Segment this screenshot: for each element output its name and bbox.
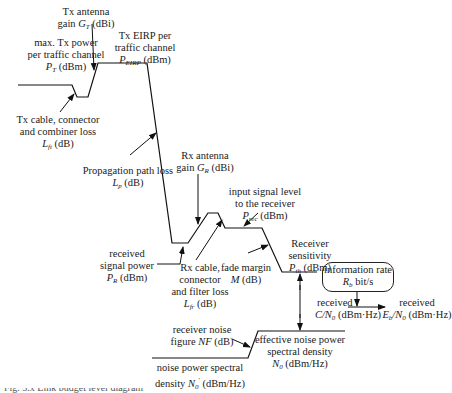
label-ebn0: received Eb/N0 (dBm·Hz) <box>382 297 452 324</box>
arrow-fade-margin <box>248 245 268 253</box>
label-info-rate: information rate Rb bit/s <box>322 264 394 291</box>
link-budget-diagram: max. Tx power per traffic channel PT (dB… <box>0 0 452 393</box>
arrow-noise-figure <box>232 339 250 347</box>
arrow-path-loss <box>130 133 156 155</box>
label-tx-loss: Tx cable, connector and combiner loss Lf… <box>8 114 108 153</box>
label-noise-figure: receiver noise figure NF (dB) <box>170 324 234 348</box>
label-cn0: received C/N0 (dBm·Hz) <box>303 297 393 324</box>
label-rx-power: received signal power PR (dBm) <box>96 248 158 287</box>
arrow-tx-loss <box>60 94 74 112</box>
label-fade-margin: fade margin M (dB) <box>216 262 276 286</box>
label-rx-antenna: Rx antenna gain GR (dBi) <box>165 150 245 177</box>
label-effective-noise: effective noise power spectral density N… <box>252 334 348 373</box>
label-input-level: input signal level to the receiver Prec … <box>224 186 306 225</box>
caption-fragment: Fig. 5.x Link budget level diagram <box>4 388 304 393</box>
label-tx-power: max. Tx power per traffic channel PT (dB… <box>20 37 112 76</box>
label-tx-eirp: Tx EIRP per traffic channel PEIRP (dBm) <box>100 30 190 69</box>
